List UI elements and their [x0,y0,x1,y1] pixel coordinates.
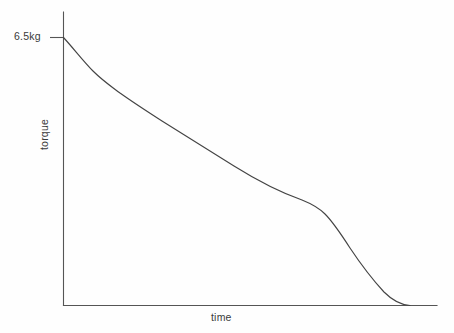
x-axis-title: time [211,311,232,323]
y-axis-title: torque [38,119,50,150]
chart-container: 6.5kg torque time [0,0,454,333]
y-axis-value-label: 6.5kg [14,30,41,42]
torque-time-plot [0,0,454,333]
torque-decay-curve [64,38,411,306]
